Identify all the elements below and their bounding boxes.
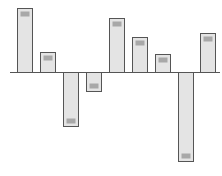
bar-end-marker (21, 12, 30, 17)
bar-end-marker (90, 84, 99, 89)
bar-chart (0, 0, 222, 176)
bar-1 (18, 9, 33, 73)
bar-end-marker (204, 37, 213, 42)
bar-end-marker (44, 56, 53, 61)
bar-end-marker (136, 41, 145, 46)
bars-group (18, 9, 216, 162)
bar-end-marker (159, 58, 168, 63)
bar-end-marker (113, 22, 122, 27)
bar-end-marker (182, 154, 191, 159)
bar-4 (87, 73, 102, 92)
bar-5 (110, 19, 125, 73)
bar-end-marker (67, 119, 76, 124)
bar-7 (156, 55, 171, 73)
bar-8 (179, 73, 194, 162)
bar-3 (64, 73, 79, 127)
